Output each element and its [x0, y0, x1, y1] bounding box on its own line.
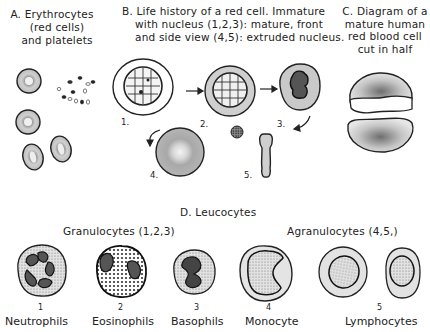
lymphocyte-icon	[386, 248, 420, 298]
leucocytes-illustration	[0, 0, 430, 332]
leucocyte-number: 1	[38, 303, 43, 312]
leucocyte-name: Monocyte	[245, 315, 299, 328]
leucocyte-number: 2	[118, 303, 123, 312]
basophil-icon	[174, 250, 215, 294]
leucocyte-number: 4	[266, 303, 271, 312]
eosinophil-icon	[97, 246, 146, 297]
leucocyte-name: Neutrophils	[5, 315, 68, 328]
leucocyte-name: Lymphocytes	[345, 315, 417, 328]
monocyte-icon	[240, 246, 292, 301]
lymphocyte-icon	[319, 247, 367, 297]
leucocyte-number: 5	[377, 303, 382, 312]
leucocyte-number: 3	[194, 303, 199, 312]
leucocyte-name: Eosinophils	[92, 315, 154, 328]
neutrophil-icon	[18, 245, 66, 296]
leucocyte-name: Basophils	[171, 315, 224, 328]
